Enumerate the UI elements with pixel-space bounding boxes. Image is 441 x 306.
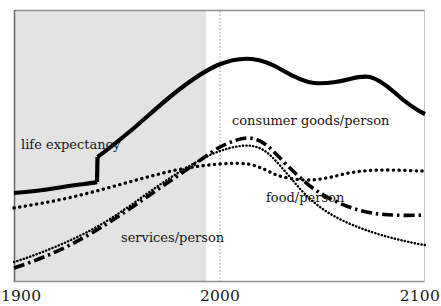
x-tick-label-1900: 1900: [1, 287, 41, 305]
series-line-life-expectancy-jump: [97, 157, 98, 182]
x-tick-label-2000: 2000: [200, 287, 240, 305]
series-label-services: services/person: [121, 230, 225, 245]
series-label-food: food/person: [266, 190, 345, 205]
chart-figure: life expectancy consumer goods/person fo…: [0, 0, 441, 306]
line-chart: life expectancy consumer goods/person fo…: [0, 0, 441, 306]
series-label-life-expectancy: life expectancy: [21, 137, 121, 152]
series-label-consumer-goods: consumer goods/person: [232, 113, 390, 128]
x-tick-label-2100: 2100: [400, 287, 440, 305]
